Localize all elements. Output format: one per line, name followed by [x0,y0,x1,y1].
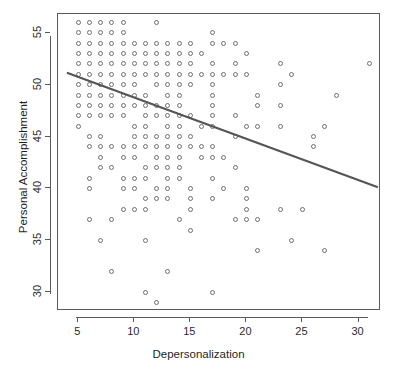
y-tick-label: 45 [31,129,43,143]
y-tick [45,32,50,33]
x-tick [301,317,302,322]
x-tick-label: 10 [127,325,139,337]
x-axis-line [76,317,368,318]
y-tick-label: 55 [31,25,43,39]
y-tick [45,84,50,85]
y-tick-label: 30 [31,284,43,298]
y-tick-label: 35 [31,232,43,246]
chart-screenshot: Personal Accomplishment 303540455055 510… [0,0,397,372]
x-tick [358,317,359,322]
regression-line [67,73,378,187]
x-tick-label: 20 [239,325,251,337]
x-tick-label: 30 [351,325,363,337]
y-tick [45,291,50,292]
y-tick [45,136,50,137]
y-tick [45,239,50,240]
x-tick-label: 15 [183,325,195,337]
regression-line-layer [58,14,379,309]
y-tick-label: 40 [31,180,43,194]
x-tick [189,317,190,322]
y-axis-line [50,36,51,294]
x-tick [133,317,134,322]
y-axis-title: Personal Accomplishment [17,67,29,267]
y-tick-label: 50 [31,77,43,91]
x-tick-label: 25 [295,325,307,337]
x-tick [77,317,78,322]
x-tick-label: 5 [74,325,80,337]
plot-area [57,13,380,310]
y-tick [45,187,50,188]
x-tick [245,317,246,322]
x-axis-title: Depersonalization [0,348,397,360]
